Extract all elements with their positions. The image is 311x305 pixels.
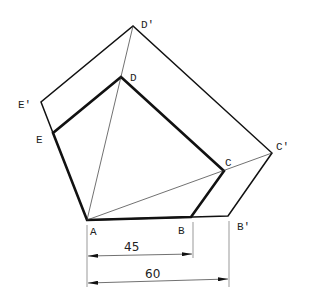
label-dprime: D'	[141, 19, 154, 31]
dimension-line-45	[88, 254, 192, 256]
dimension-60: 60	[145, 267, 160, 281]
dimension-45: 45	[124, 240, 139, 254]
label-c: C	[225, 157, 232, 169]
diagonal-a-cprime	[87, 153, 272, 220]
label-a: A	[90, 226, 97, 238]
label-d: D	[130, 72, 137, 84]
label-b: B	[178, 225, 185, 237]
diagonal-a-dprime	[87, 26, 133, 220]
label-bprime: B'	[237, 221, 250, 233]
label-eprime: E'	[18, 99, 31, 111]
label-cprime: C'	[276, 141, 289, 153]
label-e: E	[36, 134, 43, 146]
inner-pentagon	[53, 77, 224, 220]
pentagon-diagram: A B C D E B' C' D' E' 45 60	[0, 0, 311, 305]
